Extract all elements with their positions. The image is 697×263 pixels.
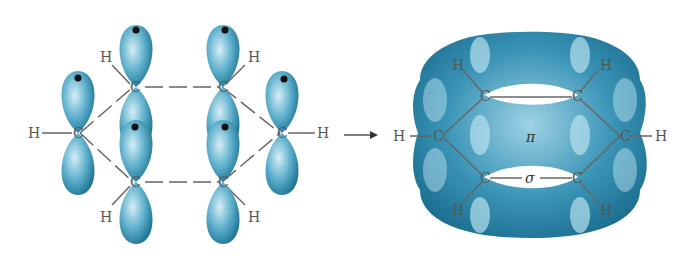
c-label: C [620, 128, 631, 144]
h-label: H [393, 128, 405, 144]
c-label: C [572, 170, 583, 186]
benzene-orbital-diagram: H C C C C C C H H H H H [0, 0, 697, 263]
c-label: C [73, 125, 84, 141]
c-label: C [218, 79, 229, 95]
h-label: H [100, 209, 112, 225]
c-label: C [130, 79, 141, 95]
h-label: H [248, 209, 260, 225]
pi-label: π [525, 129, 536, 145]
h-label: H [600, 57, 612, 73]
c-label: C [572, 88, 583, 104]
c-label: C [480, 88, 491, 104]
h-label: H [100, 49, 112, 65]
c-label: C [480, 170, 491, 186]
right-panel-pi-cloud: H C C C C C C H H H H H π σ [393, 32, 667, 238]
c-label: C [433, 128, 444, 144]
electron-dot [75, 75, 82, 82]
c-label: C [218, 174, 229, 190]
sigma-label: σ [525, 170, 535, 186]
h-label: H [248, 49, 260, 65]
h-label: H [452, 202, 464, 218]
h-label: H [452, 57, 464, 73]
left-panel-p-orbitals: H C C C C C C H H H H H [28, 25, 329, 244]
c-label: C [130, 174, 141, 190]
h-label: H [600, 202, 612, 218]
h-label: H [317, 125, 329, 141]
h-label: H [655, 128, 667, 144]
arrow-right-icon [344, 131, 378, 139]
c-label: C [277, 125, 288, 141]
h-label: H [28, 125, 40, 141]
